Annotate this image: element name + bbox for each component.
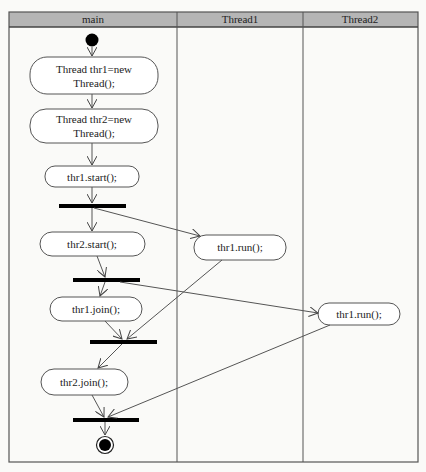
join-bar-2 (73, 418, 139, 422)
svg-text:thr1.start();: thr1.start(); (67, 171, 117, 184)
lane-title-thread1: Thread1 (222, 13, 259, 25)
svg-text:Thread();: Thread(); (73, 127, 115, 140)
activity-create-thr2: Thread thr2=new Thread(); (30, 109, 158, 143)
svg-text:Thread();: Thread(); (73, 77, 115, 90)
activity-thr1-join: thr1.join(); (50, 297, 142, 321)
svg-text:thr1.run();: thr1.run(); (217, 241, 263, 254)
activity-thread1-run: thr1.run(); (194, 235, 286, 260)
activity-thread2-run: thr1.run(); (318, 303, 400, 325)
activity-create-thr1: Thread thr1=new Thread(); (30, 57, 158, 94)
join-bar-1 (90, 340, 157, 344)
fork-bar-1 (59, 204, 126, 208)
svg-text:thr2.start();: thr2.start(); (67, 238, 117, 251)
svg-text:thr1.join();: thr1.join(); (72, 303, 120, 316)
fork-bar-2 (73, 278, 140, 282)
svg-text:Thread thr2=new: Thread thr2=new (56, 113, 132, 125)
final-node (97, 437, 114, 454)
initial-node (86, 34, 99, 47)
svg-text:thr1.run();: thr1.run(); (336, 308, 382, 321)
activity-thr2-join: thr2.join(); (41, 369, 128, 395)
activity-thr2-start: thr2.start(); (40, 232, 145, 256)
activity-thr1-start: thr1.start(); (45, 166, 139, 187)
lane-title-main: main (82, 13, 104, 25)
activity-diagram: main Thread1 Thread2 Thread thr1=new Thr… (0, 0, 426, 472)
svg-text:thr2.join();: thr2.join(); (60, 376, 108, 389)
lane-title-thread2: Thread2 (342, 13, 379, 25)
svg-text:Thread thr1=new: Thread thr1=new (56, 63, 132, 75)
